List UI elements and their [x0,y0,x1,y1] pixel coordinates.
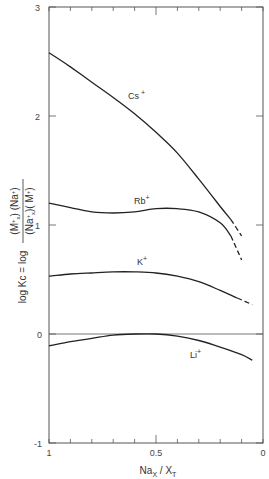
series-label-k: K+ [137,255,147,267]
series-label-li: Li+ [190,348,201,360]
series-label-cs: Cs + [128,89,145,101]
chart: 3 2 1 0 -1 1 0.5 0 NaX / XT log Kc = log… [0,0,269,479]
series-label-rb: Rb+ [134,194,150,206]
y-axis-label: log Kc = log (M+x) (Na+) (Na+x)( M+) [9,179,36,303]
y-tick-label-1: 1 [35,221,40,231]
y-tick-label-3: 3 [35,3,40,13]
x-tick-label-0-5: 0.5 [150,448,163,458]
series-group [49,53,252,360]
series-line-li [49,334,252,360]
y-axis-label-prefix: log Kc = log [17,251,28,304]
series-extrapolation-rb [231,236,242,260]
series-line-cs [49,53,231,220]
x-tick-label-0: 0 [260,448,265,458]
series-line-rb [49,203,231,236]
series-extrapolation-k [237,298,252,305]
axis-ticks [49,7,263,443]
y-axis-fraction-numerator: (M+x) (Na+) [9,187,21,234]
y-tick-label-minus-1: -1 [34,439,42,449]
y-axis-fraction-denominator: (Na+x)( M+) [24,187,36,234]
plot-frame [49,7,263,443]
x-tick-label-1: 1 [46,448,51,458]
series-line-k [49,272,237,298]
x-axis-label: NaX / XT [140,465,177,478]
y-tick-label-2: 2 [35,112,40,122]
series-extrapolation-cs [231,220,242,236]
y-tick-label-0: 0 [37,330,42,340]
